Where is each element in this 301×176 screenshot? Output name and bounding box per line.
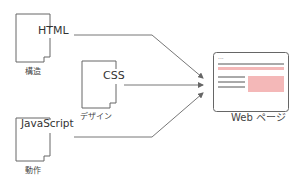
html-label: HTML bbox=[38, 25, 69, 36]
web-page-icon bbox=[214, 53, 289, 112]
html-caption: 構造 bbox=[25, 68, 41, 76]
js-label: JavaScript bbox=[21, 118, 74, 129]
web-page-caption: Web ページ bbox=[231, 113, 286, 123]
web-page-dots: ... bbox=[218, 54, 224, 60]
js-caption: 動作 bbox=[25, 167, 41, 175]
arrow-html-to-web bbox=[74, 35, 203, 78]
diagram-canvas: ... HTML 構造 CSS デザイン JavaScript 動作 Web ペ… bbox=[0, 0, 301, 176]
css-caption: デザイン bbox=[80, 113, 112, 121]
css-label: CSS bbox=[103, 70, 125, 81]
html-document-icon bbox=[16, 14, 50, 62]
